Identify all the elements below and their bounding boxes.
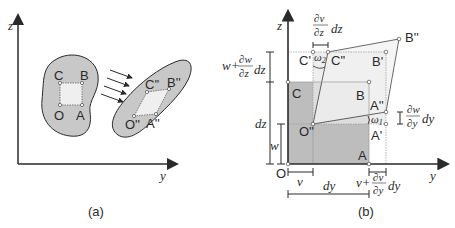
dy-label: dy [323,178,336,193]
label-A2-a: A'' [146,116,160,131]
dwdz-den: ∂z [239,67,249,79]
label-O2: O'' [299,124,314,139]
label-C2: C'' [331,53,345,68]
label-C1: C' [299,53,311,68]
z-axis-label-b: z [276,18,282,33]
label-O2-a: O'' [125,117,140,132]
label-O-a: O [54,108,64,123]
label-B2: B'' [405,30,419,45]
dvdz-suffix: dz [331,21,343,36]
dwdz-suffix: dz [254,62,266,77]
square-before [60,83,82,105]
w-label: w [270,138,279,153]
z-axis-label-a: z [7,18,13,33]
label-C: C [292,86,301,101]
panel-b: z y O A B C O'' A'' B'' C'' A' B' C' ω [222,12,447,219]
label-B: B [356,88,365,103]
caption-b: (b) [358,204,374,219]
label-B2-a: B'' [167,75,181,90]
dvdy-num: ∂v [373,171,383,183]
w-plus-prefix: w+ [222,58,239,73]
dwdy-num: ∂w [407,103,420,115]
dvdz-num: ∂v [314,12,324,24]
label-A: A [358,148,367,163]
dim-dwdy [397,112,403,124]
dim-dvdz [313,42,328,48]
dwdz-num: ∂w [239,53,252,65]
strain-diagram: z y C B O A C'' B'' O'' A'' (a) [0,0,455,228]
label-A1: A' [371,128,382,143]
label-C2-a: C'' [145,77,159,92]
label-O: O [276,166,286,181]
v-plus-prefix: v+ [356,175,371,190]
v-label: v [297,174,303,189]
dz-label: dz [255,116,267,131]
label-A-a: A [76,108,85,123]
dvdz-den: ∂z [314,26,324,38]
y-axis-label-a: y [158,168,166,183]
dvdy-den: ∂y [373,184,383,196]
dwdy-suffix: dy [422,111,435,126]
label-B1: B' [372,54,383,69]
label-B-a: B [80,68,89,83]
panel-a: z y C B O A C'' B'' O'' A'' (a) [7,16,191,219]
label-C-a: C [54,68,63,83]
label-A2: A'' [370,98,384,113]
dvdy-suffix: dy [388,178,401,193]
y-axis-label-b: y [428,168,436,183]
dwdy-den: ∂y [407,117,417,129]
dim-w-plus [266,52,274,82]
caption-a: (a) [88,204,104,219]
